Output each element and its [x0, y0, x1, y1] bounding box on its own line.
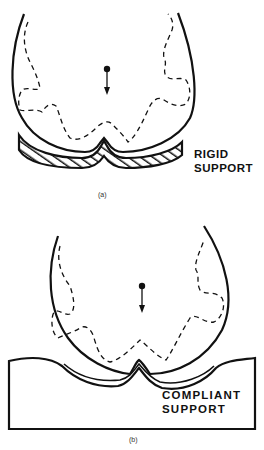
body-outline-b [51, 226, 229, 374]
compliant-support-label-line1: COMPLIANT [162, 389, 241, 401]
gravity-arrowhead-b [139, 305, 145, 313]
gravity-arrowhead-a [104, 87, 110, 95]
figure-a: RIGID SUPPORT (a) [12, 13, 253, 199]
caption-b: (b) [129, 436, 138, 444]
figure-b: COMPLIANT SUPPORT (b) [9, 226, 255, 444]
rigid-support-label-line1: RIGID [194, 148, 228, 160]
body-outline-a [12, 13, 194, 152]
inner-dashed-contour-a [19, 14, 190, 142]
diagram-canvas: RIGID SUPPORT (a) COMPLIANT SUPPORT (b) [0, 0, 264, 450]
caption-a: (a) [98, 191, 107, 199]
compliant-support-label-line2: SUPPORT [162, 403, 226, 415]
inner-dashed-contour-b [52, 240, 224, 362]
rigid-support-label-line2: SUPPORT [194, 162, 253, 174]
